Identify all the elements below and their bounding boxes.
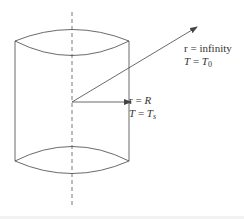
outer-t-line: T = T0	[184, 55, 232, 68]
outer-r-line: r = infinity	[184, 42, 232, 55]
cylinder-diagram	[0, 0, 244, 219]
bottom-strip	[0, 216, 244, 219]
infinity-arrow	[72, 27, 197, 102]
inner-t-line: T = Ts	[129, 107, 156, 120]
diagram-canvas: r = infinity T = T0 r = R T = Ts	[0, 0, 244, 219]
outer-boundary-label: r = infinity T = T0	[184, 42, 232, 68]
inner-r-line: r = R	[129, 94, 156, 107]
inner-boundary-label: r = R T = Ts	[129, 94, 156, 120]
